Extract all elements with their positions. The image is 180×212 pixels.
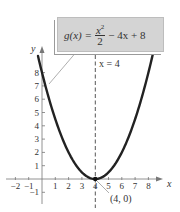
y-tick-label: 2 [35,147,40,157]
y-tick-labels: −112345678 [29,68,39,198]
formula-box: g(x) = x2 2 − 4x + 8 [57,17,164,52]
x-tick-label: 7 [133,181,138,191]
y-tick-label: 1 [35,161,40,171]
y-tick-label: −1 [29,187,39,197]
x-tick-label: 1 [53,181,58,191]
y-tick-label: 3 [35,134,40,144]
y-tick-label: 4 [35,121,40,131]
x-tick-label: 3 [80,181,85,191]
y-axis-label: y [30,43,36,54]
x-tick-label: 2 [66,181,71,191]
x-axis-label: x [166,178,172,189]
x-tick-label: −2 [11,181,21,191]
parabola-curve [38,50,154,179]
y-tick-label: 5 [35,108,40,118]
equation-rhs: − 4x + 8 [108,29,145,41]
x-tick-label: 8 [146,181,151,191]
x-tick-label: 6 [120,181,125,191]
fraction-numerator: x2 [95,22,105,37]
formula-leader-line [49,50,78,84]
equation-fraction: x2 2 [95,22,105,48]
equation-lhs: g(x) = [64,29,92,41]
y-tick-label: 6 [35,94,40,104]
function-equation: g(x) = x2 2 − 4x + 8 [64,18,145,51]
x-axis-ticks [15,177,148,180]
y-tick-label: 7 [35,81,40,91]
vertex-point [93,177,97,181]
axis-of-symmetry-label: x = 4 [99,58,120,69]
y-tick-label: 8 [35,68,40,78]
fraction-denominator: 2 [97,36,103,47]
x-tick-label: 5 [106,181,111,191]
y-axis-ticks [42,73,45,193]
vertex-label: (4, 0) [110,193,132,205]
